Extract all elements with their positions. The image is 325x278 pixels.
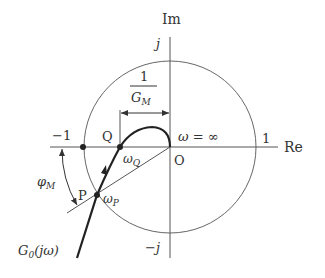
curve-direction-arrow-icon (101, 165, 107, 175)
curve-label: G0(jω) (18, 243, 59, 260)
label-omega-infinity: ω = ∞ (178, 129, 219, 144)
real-axis-label: Re (284, 139, 303, 155)
label-j: j (153, 36, 160, 51)
label-q: Q (102, 129, 113, 144)
gain-margin-numerator: 1 (140, 69, 148, 84)
nyquist-diagram: Im Re O j −j −1 1 Q ωQ P ωP ω = ∞ 1 GM φ… (0, 0, 325, 278)
label-minus-one: −1 (52, 128, 71, 143)
imag-axis-label: Im (162, 11, 181, 27)
phase-margin-label: φM (37, 174, 56, 191)
point-minus-one (80, 144, 86, 150)
label-minus-j: −j (145, 240, 160, 255)
point-p (94, 192, 100, 198)
label-one: 1 (262, 131, 270, 146)
label-omega-p: ωP (103, 192, 120, 208)
label-p: P (78, 188, 87, 203)
point-q (117, 144, 123, 150)
origin-label: O (174, 153, 185, 168)
gain-margin-denominator: GM (131, 90, 151, 107)
phase-margin-arc (62, 149, 77, 205)
label-omega-q: ωQ (123, 152, 141, 168)
